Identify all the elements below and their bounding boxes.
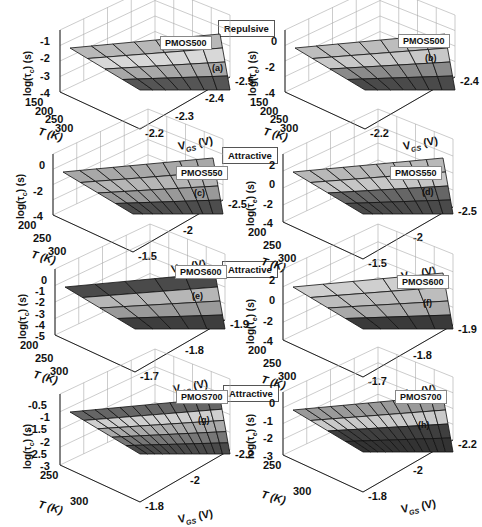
vgs-tick: -1.8	[413, 349, 432, 361]
z-tick: -2	[33, 185, 43, 197]
panel-letter: (h)	[418, 420, 430, 430]
z-tick: 0	[269, 294, 275, 306]
t-tick: 200	[20, 339, 38, 351]
surface-mesh	[70, 398, 230, 454]
device-legend-box: PMOS600	[175, 265, 227, 279]
z-tick: -1	[40, 35, 50, 47]
surface-panel-g: -0.5-1-1.5-2-2.5-3log(τc) (s)250300T (K)…	[0, 380, 240, 520]
vgs-tick: -2.5	[458, 205, 477, 217]
surface-panel-a: -1-2-3-4log(τc) (s)150200250300T (K)-2.2…	[0, 0, 240, 130]
t-tick: 250	[40, 469, 58, 481]
z-tick: -4	[35, 319, 45, 331]
z-axis-label: log(τe) (s)	[245, 414, 258, 459]
surface-panel-c: 0-2-4log(τc) (s)200250300T (K)-1.5-2-2.5…	[0, 130, 240, 255]
vgs-tick: -2	[183, 224, 193, 236]
z-tick: -2	[40, 52, 50, 64]
z-axis-label: log(τe) (s)	[245, 299, 258, 344]
z-axis-label: log(τc) (s)	[22, 424, 35, 469]
surface-panel-f: 20-2-4log(τe) (s)200250300T (K)-1.7-1.8-…	[240, 255, 482, 380]
panel-letter: (f)	[423, 298, 432, 308]
device-legend-box: PMOS550	[176, 166, 228, 180]
vgs-tick: -1.8	[368, 490, 387, 502]
z-axis-label: log(τe) (s)	[245, 181, 258, 226]
panel-letter: (d)	[422, 187, 434, 197]
device-legend-box: PMOS500	[398, 34, 450, 48]
z-tick: -2	[263, 198, 273, 210]
z-tick: 0	[269, 397, 275, 409]
t-tick: 250	[35, 352, 53, 364]
surface-plot-d	[240, 130, 482, 255]
z-tick: -0.5	[28, 399, 47, 411]
device-legend-box: PMOS550	[390, 166, 442, 180]
panel-letter: (g)	[198, 415, 210, 425]
panel-letter: (e)	[192, 291, 203, 301]
z-tick: -2	[40, 436, 50, 448]
vgs-tick: -2	[190, 474, 200, 486]
vgs-tick: -1.9	[458, 323, 477, 335]
vgs-tick: -1.8	[185, 344, 204, 356]
vgs-tick: -2.4	[205, 92, 224, 104]
z-tick: -2	[265, 61, 275, 73]
z-tick: -1	[40, 411, 50, 423]
surface-mesh	[65, 273, 225, 329]
z-tick: 0	[39, 159, 45, 171]
z-tick: 2	[269, 274, 275, 286]
panel-letter: (a)	[212, 63, 223, 73]
device-legend-box: PMOS600	[397, 275, 449, 289]
z-tick: 0	[271, 35, 277, 47]
t-tick: 200	[248, 344, 266, 356]
z-axis-label: log(τe) (s)	[247, 51, 260, 96]
surface-panel-d: 20-2-4log(τe) (s)200250300T (K)-1.5-2-2.…	[240, 130, 482, 255]
z-tick: -2	[35, 296, 45, 308]
vgs-tick: -2.2	[458, 438, 477, 450]
surface-panel-h: 0-1-2-3log(τe) (s)250300T (K)-1.8-2-2.2V…	[240, 380, 482, 520]
surface-panel-b: 0-2-4log(τe) (s)150200250300T (K)-2.2-2.…	[240, 0, 482, 130]
z-tick: -2	[263, 432, 273, 444]
z-tick: 0	[41, 274, 47, 286]
panel-letter: (c)	[194, 188, 205, 198]
z-tick: -1	[35, 285, 45, 297]
t-tick: 200	[248, 226, 266, 238]
z-tick: -3	[35, 308, 45, 320]
z-axis-label: log(τc) (s)	[22, 51, 35, 96]
device-legend-box: PMOS500	[160, 36, 212, 50]
vgs-tick: -2.3	[175, 110, 194, 122]
z-tick: 0	[269, 178, 275, 190]
t-tick: 250	[263, 239, 281, 251]
z-axis-label: log(τc) (s)	[15, 174, 28, 219]
vgs-tick: -1.8	[145, 500, 164, 512]
device-legend-box: PMOS700	[176, 390, 228, 404]
z-tick: -1	[263, 415, 273, 427]
t-tick: 300	[70, 495, 88, 507]
panel-letter: (b)	[425, 53, 437, 63]
vgs-tick: -2	[413, 464, 423, 476]
t-tick: 250	[263, 459, 281, 471]
t-tick: 250	[263, 357, 281, 369]
t-tick: 250	[33, 232, 51, 244]
vgs-tick: -2.4	[460, 75, 479, 87]
z-axis-label: log(τc) (s)	[17, 294, 30, 339]
surface-panel-e: 0-1-2-3-4-5log(τc) (s)200250300T (K)-1.7…	[0, 255, 240, 380]
t-tick: 300	[293, 485, 311, 497]
z-tick: -2	[263, 315, 273, 327]
device-legend-box: PMOS700	[395, 390, 447, 404]
t-tick: 200	[18, 219, 36, 231]
z-tick: 2	[269, 159, 275, 171]
z-tick: -3	[40, 70, 50, 82]
